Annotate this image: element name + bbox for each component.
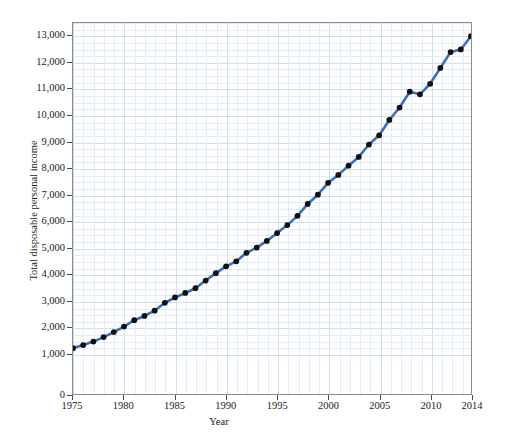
x-axis-tick-mark: [380, 395, 381, 400]
y-axis-tick-label: 2,000: [41, 322, 65, 333]
chart-figure: 01,0002,0003,0004,0005,0006,0007,0008,00…: [0, 0, 506, 441]
x-axis-tick-label: 2000: [318, 401, 339, 412]
data-point-marker: [458, 47, 464, 53]
x-axis-title: Year: [0, 416, 506, 427]
data-point-marker: [448, 49, 454, 55]
data-point-marker: [233, 258, 239, 264]
data-point-marker: [397, 105, 403, 111]
x-axis-tick-label: 2005: [369, 401, 390, 412]
x-axis-tick-label: 1995: [267, 401, 288, 412]
x-axis-title-text: Year: [209, 416, 228, 427]
y-axis-tick-label: 5,000: [41, 243, 65, 254]
y-axis-tick-mark: [67, 62, 72, 63]
data-point-marker: [182, 290, 188, 296]
data-point-marker: [172, 295, 178, 301]
data-point-marker: [305, 201, 311, 207]
y-axis-tick-label: 9,000: [41, 136, 65, 147]
data-point-marker: [315, 192, 321, 198]
y-axis-tick-mark: [67, 248, 72, 249]
data-point-marker: [111, 329, 117, 335]
data-point-marker: [376, 132, 382, 138]
x-axis-tick-mark: [175, 395, 176, 400]
data-point-marker: [203, 278, 209, 284]
y-axis-tick-mark: [67, 274, 72, 275]
data-point-marker: [142, 313, 148, 319]
data-point-marker: [91, 339, 97, 345]
data-point-marker: [335, 172, 341, 178]
x-axis-tick-label: 2010: [420, 401, 441, 412]
data-point-marker: [427, 81, 433, 87]
data-point-marker: [101, 334, 107, 340]
data-point-marker: [386, 117, 392, 123]
data-point-marker: [346, 163, 352, 169]
data-point-marker: [152, 308, 158, 314]
x-axis-tick-mark: [431, 395, 432, 400]
data-point-marker: [254, 245, 260, 251]
x-axis-tick-label: 1985: [164, 401, 185, 412]
data-point-marker: [193, 285, 199, 291]
data-point-marker: [417, 91, 423, 97]
x-axis-tick-label: 1990: [215, 401, 236, 412]
y-axis-tick-mark: [67, 301, 72, 302]
y-axis-tick-label: 6,000: [41, 216, 65, 227]
x-axis-tick-mark: [328, 395, 329, 400]
data-point-marker: [80, 342, 86, 348]
data-point-marker: [366, 142, 372, 148]
y-axis-tick-mark: [67, 327, 72, 328]
data-point-marker: [121, 324, 127, 330]
y-axis-tick-mark: [67, 142, 72, 143]
y-axis-title-text: Total disposable personal income: [28, 140, 39, 280]
data-series-line: [73, 23, 471, 394]
y-axis-tick-mark: [67, 195, 72, 196]
data-point-marker: [407, 89, 413, 95]
y-axis-tick-label: 8,000: [41, 163, 65, 174]
x-axis-tick-mark: [72, 395, 73, 400]
data-point-marker: [295, 213, 301, 219]
data-point-marker: [162, 300, 168, 306]
y-axis-tick-mark: [67, 221, 72, 222]
data-point-marker: [244, 250, 250, 256]
data-point-marker: [131, 317, 137, 323]
y-axis-tick-label: 1,000: [41, 349, 65, 360]
plot-area: [72, 22, 472, 395]
data-point-marker: [213, 270, 219, 276]
data-point-marker: [274, 230, 280, 236]
y-axis-title: Total disposable personal income: [22, 0, 44, 441]
data-point-marker: [437, 65, 443, 71]
data-point-marker: [223, 263, 229, 269]
y-axis-tick-label: 7,000: [41, 189, 65, 200]
data-point-marker: [284, 222, 290, 228]
x-axis-tick-mark: [472, 395, 473, 400]
x-axis-tick-mark: [277, 395, 278, 400]
y-axis-tick-label: 3,000: [41, 296, 65, 307]
y-axis-tick-mark: [67, 354, 72, 355]
x-axis-tick-mark: [123, 395, 124, 400]
x-axis-tick-mark: [226, 395, 227, 400]
data-point-marker: [325, 180, 331, 186]
y-axis-tick-mark: [67, 35, 72, 36]
y-axis-tick-mark: [67, 88, 72, 89]
x-axis-tick-label: 2014: [462, 401, 483, 412]
x-axis-tick-label: 1975: [62, 401, 83, 412]
y-axis-tick-label: 4,000: [41, 269, 65, 280]
y-axis-tick-mark: [67, 115, 72, 116]
data-point-marker: [356, 154, 362, 160]
y-axis-tick-mark: [67, 168, 72, 169]
data-point-marker: [264, 238, 270, 244]
series-line: [73, 36, 471, 348]
x-axis-tick-label: 1980: [113, 401, 134, 412]
